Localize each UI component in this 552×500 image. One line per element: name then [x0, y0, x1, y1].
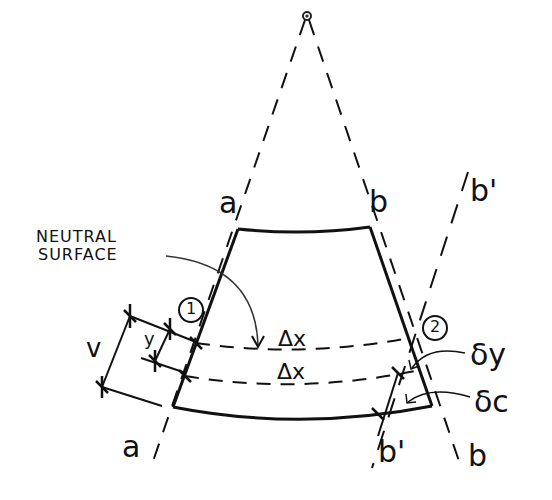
radial-line-b	[309, 20, 462, 470]
label-b-prime-bottom: b'	[378, 437, 405, 467]
label-point-1: 1	[186, 301, 196, 317]
label-b-prime-top: b'	[470, 176, 497, 206]
label-b-bottom: b	[468, 441, 487, 471]
segment-bottom-edge	[173, 406, 432, 419]
dim-v-line	[102, 316, 130, 387]
dim-y-line	[155, 329, 170, 361]
label-dx-neutral: Δx	[278, 328, 306, 350]
segment-top-edge	[238, 227, 370, 232]
label-dx-fiber: Δx	[277, 361, 305, 383]
label-delta-c: δc	[474, 387, 509, 417]
label-a-top: a	[219, 188, 237, 218]
label-neutral: NEUTRAL	[36, 229, 117, 245]
label-a-bottom: a	[122, 432, 140, 462]
label-y: y	[144, 330, 155, 348]
delta-y-leader	[412, 351, 465, 368]
label-surface: SURFACE	[38, 247, 118, 263]
label-point-2: 2	[430, 319, 440, 335]
label-b-top: b	[369, 187, 388, 217]
label-v: v	[86, 335, 101, 361]
label-delta-y: δy	[470, 340, 506, 370]
